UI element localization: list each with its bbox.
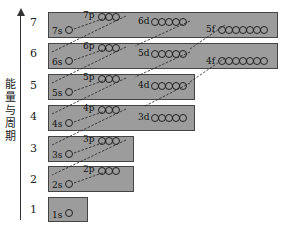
- orbital-label-6d: 6d: [138, 16, 150, 26]
- axis-label: 能量与周期: [4, 78, 17, 143]
- orbital-6p: [98, 44, 119, 52]
- orbital-4p: [98, 106, 119, 114]
- orbital-5p: [98, 75, 119, 83]
- orbital-7p: [98, 13, 119, 21]
- orbital-label-1s: 1s: [52, 210, 62, 220]
- orbital-4s: [65, 119, 72, 127]
- orbital-label-5d: 5d: [138, 48, 150, 58]
- orbital-label-7p: 7p: [83, 10, 95, 20]
- orbital-1s: [65, 209, 72, 217]
- orbital-label-5p: 5p: [83, 72, 95, 82]
- orbital-label-3d: 3d: [138, 112, 150, 122]
- orbital-6s: [65, 57, 72, 65]
- period-label-5: 5: [30, 79, 37, 92]
- orbital-label-5f: 5f: [206, 24, 215, 34]
- period-label-2: 2: [30, 173, 37, 186]
- axis-arrowhead-icon: [17, 8, 25, 16]
- orbital-label-2p: 2p: [83, 164, 95, 174]
- orbital-label-4d: 4d: [138, 80, 150, 90]
- period-label-7: 7: [30, 16, 37, 29]
- orbital-6d: [151, 18, 186, 26]
- orbital-label-4s: 4s: [52, 119, 62, 129]
- period-label-3: 3: [30, 142, 37, 155]
- orbital-label-5s: 5s: [52, 88, 62, 98]
- orbital-label-4f: 4f: [206, 56, 215, 66]
- period-label-4: 4: [30, 110, 37, 123]
- energy-axis: [20, 14, 21, 220]
- orbital-label-4p: 4p: [83, 103, 95, 113]
- orbital-5f: [218, 26, 267, 34]
- orbital-2s: [65, 180, 72, 188]
- orbital-label-3s: 3s: [52, 150, 62, 160]
- orbital-label-6s: 6s: [52, 57, 62, 67]
- orbital-4d: [151, 82, 186, 90]
- orbital-3s: [65, 150, 72, 158]
- orbital-label-6p: 6p: [83, 41, 95, 51]
- period-label-6: 6: [30, 47, 37, 60]
- orbital-2p: [98, 167, 119, 175]
- orbital-label-2s: 2s: [52, 180, 62, 190]
- orbital-5s: [65, 88, 72, 96]
- period-label-1: 1: [30, 203, 37, 216]
- orbital-label-7s: 7s: [52, 26, 62, 36]
- orbital-4f: [218, 57, 267, 65]
- orbital-3d: [151, 114, 186, 122]
- orbital-label-3p: 3p: [83, 134, 95, 144]
- orbital-7s: [65, 26, 72, 34]
- orbital-3p: [98, 137, 119, 145]
- orbital-5d: [151, 50, 186, 58]
